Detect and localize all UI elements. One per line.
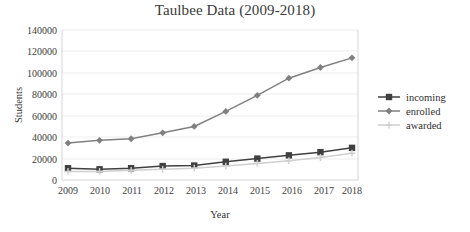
data-point-marker: [386, 94, 392, 100]
legend-label: awarded: [406, 120, 442, 131]
legend-item-enrolled[interactable]: enrolled: [378, 106, 441, 117]
x-tick-label: 2010: [90, 185, 110, 196]
data-point-marker: [349, 54, 356, 61]
series-enrolled: [65, 54, 356, 146]
data-series-layer: [65, 54, 356, 174]
x-tick-label: 2015: [250, 185, 270, 196]
y-tick-label: 80000: [32, 89, 57, 100]
y-tick-label: 60000: [32, 111, 57, 122]
data-point-marker: [128, 135, 135, 142]
y-axis-title: Students: [13, 87, 24, 123]
data-point-marker: [317, 64, 324, 71]
chart-figure: Taulbee Data (2009-2018) 140000 120000 1…: [0, 0, 470, 232]
data-point-marker: [191, 123, 198, 130]
x-axis-title: Year: [210, 209, 230, 220]
y-axis-tick-labels: 140000 120000 100000 80000 60000 40000 2…: [27, 25, 57, 186]
x-tick-label: 2018: [342, 185, 362, 196]
legend-item-incoming[interactable]: incoming: [378, 92, 446, 103]
y-tick-label: 120000: [27, 46, 57, 57]
data-point-marker: [285, 75, 292, 82]
x-tick-label: 2011: [122, 185, 142, 196]
data-point-marker: [386, 108, 393, 115]
y-tick-label: 40000: [32, 132, 57, 143]
y-tick-label: 100000: [27, 68, 57, 79]
x-tick-label: 2009: [58, 185, 78, 196]
data-point-marker: [222, 108, 229, 115]
y-tick-label: 20000: [32, 154, 57, 165]
legend-label: enrolled: [406, 106, 441, 117]
data-point-marker: [96, 137, 103, 144]
data-point-marker: [386, 122, 393, 129]
x-tick-label: 2016: [282, 185, 302, 196]
legend-label: incoming: [406, 92, 446, 103]
chart-legend: incomingenrolledawarded: [378, 92, 446, 131]
y-tick-label: 140000: [27, 25, 57, 36]
x-tick-label: 2017: [314, 185, 334, 196]
x-tick-label: 2013: [186, 185, 206, 196]
x-tick-label: 2014: [218, 185, 238, 196]
series-line-enrolled: [68, 58, 352, 143]
data-point-marker: [65, 140, 72, 147]
data-point-marker: [159, 129, 166, 136]
legend-item-awarded[interactable]: awarded: [378, 120, 442, 131]
x-axis-tick-labels: 2009 2010 2011 2012 2013 2014 2015 2016 …: [58, 185, 362, 196]
x-tick-label: 2012: [154, 185, 174, 196]
y-tick-label: 0: [52, 175, 57, 186]
data-point-marker: [254, 92, 261, 99]
line-chart-plot: 140000 120000 100000 80000 60000 40000 2…: [0, 0, 470, 232]
